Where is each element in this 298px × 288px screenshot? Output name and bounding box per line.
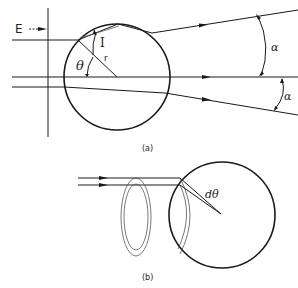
- ray-b-upper-arrow-icon: [99, 176, 108, 180]
- annulus-inner: [124, 184, 148, 250]
- surface-band-inner: [178, 185, 187, 249]
- deflection-label-upper: α: [271, 41, 279, 54]
- deflection-arc-upper: [258, 16, 266, 76]
- incidence-angle-label: I: [100, 36, 105, 50]
- field-label: E: [15, 22, 23, 36]
- exit-ray-lower: [165, 93, 298, 115]
- deflection-label-lower: α: [284, 90, 292, 103]
- deflection-arc-lower-top-arrow-icon: [280, 78, 284, 83]
- internal-ray-lower: [64, 87, 165, 93]
- sphere-b: [169, 162, 275, 268]
- panel-a: E I θ r α: [12, 8, 298, 153]
- panel-b-caption: (b): [142, 273, 153, 282]
- polar-angle-label: θ: [76, 58, 84, 73]
- polar-angle-arc: [87, 57, 93, 76]
- exit-ray-upper: [152, 10, 298, 33]
- annulus-outer: [121, 178, 151, 256]
- panel-b: dθ (b): [78, 162, 275, 282]
- radius-label: r: [104, 53, 108, 63]
- field-arrow-icon: [38, 27, 47, 31]
- angle-increment-label: dθ: [205, 188, 219, 201]
- panel-a-caption: (a): [142, 144, 153, 153]
- axis-ray-arrow-icon: [202, 75, 211, 79]
- scattering-diagram: E I θ r α: [0, 0, 298, 288]
- radius-line: [78, 40, 117, 77]
- ray-b-lower-arrow-icon: [99, 183, 108, 187]
- deflection-arc-lower: [275, 79, 283, 109]
- incidence-angle-arc: [93, 32, 96, 55]
